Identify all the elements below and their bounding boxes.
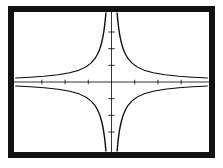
figure-frame (8, 6, 215, 158)
screenshot-root (0, 0, 223, 168)
curve-branch-i (117, 13, 208, 79)
curve-branch-ii (15, 13, 106, 79)
hyperbola-plot (14, 12, 209, 152)
plot-area (14, 12, 209, 152)
curve-branch-iv (117, 86, 208, 152)
curve-branch-iii (15, 86, 106, 152)
